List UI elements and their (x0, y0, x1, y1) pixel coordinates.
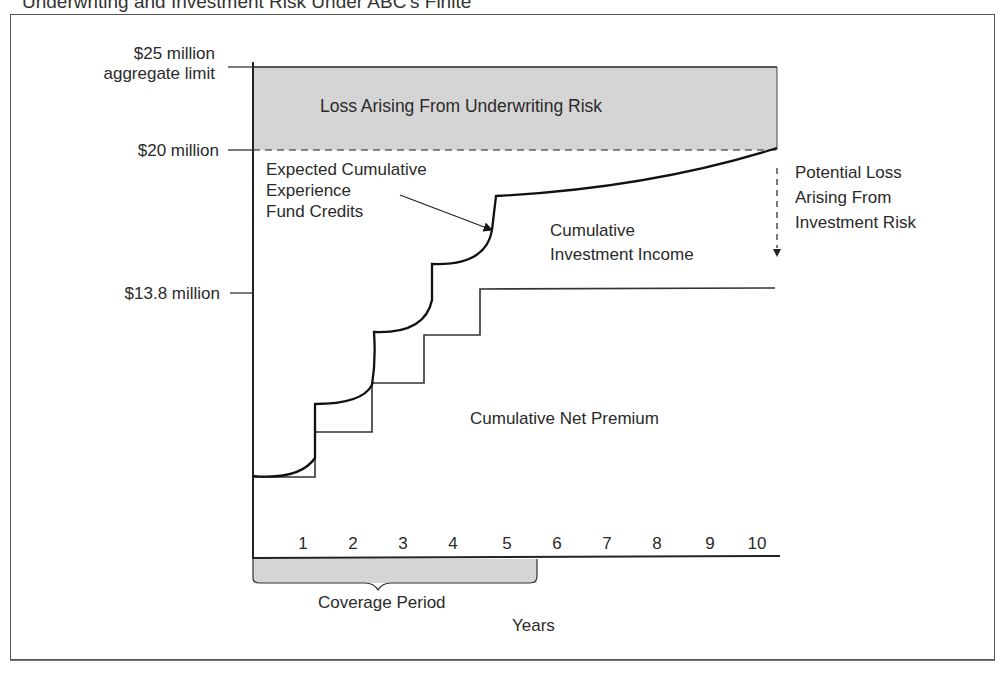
x-tick-2: 2 (338, 534, 368, 554)
x-tick-3: 3 (388, 534, 418, 554)
net-premium-line (253, 288, 775, 477)
experience-credits-label-1: Expected Cumulative (266, 160, 427, 180)
arrow-down-icon (773, 249, 781, 257)
x-tick-5: 5 (492, 534, 522, 554)
experience-credits-arrow (400, 195, 492, 230)
x-tick-9: 9 (695, 534, 725, 554)
investment-risk-label-2: Arising From (795, 188, 891, 208)
investment-risk-label-1: Potential Loss (795, 163, 902, 183)
investment-income-label-1: Cumulative (550, 221, 635, 241)
x-tick-4: 4 (438, 534, 468, 554)
experience-credits-label-2: Experience (266, 181, 351, 201)
y-label-20m: $20 million (60, 141, 219, 161)
underwriting-risk-label: Loss Arising From Underwriting Risk (320, 96, 602, 116)
x-tick-6: 6 (542, 534, 572, 554)
experience-credits-label-3: Fund Credits (266, 202, 363, 222)
x-tick-8: 8 (642, 534, 672, 554)
investment-risk-label-3: Investment Risk (795, 213, 916, 233)
coverage-period-band (253, 559, 537, 583)
coverage-period-label: Coverage Period (318, 593, 446, 613)
x-axis-title: Years (512, 616, 555, 636)
x-tick-1: 1 (288, 534, 318, 554)
y-label-aggregate-limit: aggregate limit (60, 64, 215, 84)
y-label-25m: $25 million (60, 44, 215, 64)
x-axis (253, 556, 780, 558)
y-label-13-8m: $13.8 million (60, 284, 220, 304)
x-tick-7: 7 (592, 534, 622, 554)
net-premium-label: Cumulative Net Premium (470, 409, 659, 429)
x-tick-10: 10 (742, 534, 772, 554)
investment-income-label-2: Investment Income (550, 245, 694, 265)
